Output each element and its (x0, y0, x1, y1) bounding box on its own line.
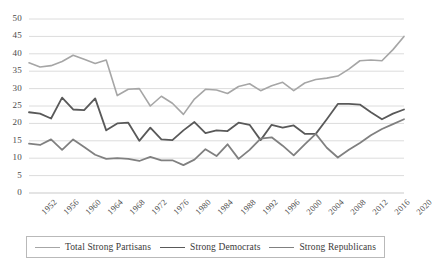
legend-item-label: Strong Republicans (299, 242, 375, 252)
series-line (29, 98, 404, 141)
y-tick-label: 20 (0, 117, 22, 127)
legend-line-swatch (35, 247, 60, 248)
legend-line-swatch (269, 247, 294, 248)
y-tick-label: 45 (0, 30, 22, 40)
y-tick-label: 10 (0, 152, 22, 162)
y-tick-label: 0 (0, 187, 22, 197)
legend: Total Strong PartisansStrong DemocratsSt… (26, 236, 385, 258)
y-tick-label: 5 (0, 170, 22, 180)
y-tick-label: 25 (0, 100, 22, 110)
y-tick-label: 35 (0, 65, 22, 75)
y-tick-label: 30 (0, 83, 22, 93)
legend-item-label: Total Strong Partisans (65, 242, 151, 252)
y-tick-label: 50 (0, 13, 22, 23)
x-tick-label: 2020 (414, 197, 434, 217)
y-tick-label: 15 (0, 135, 22, 145)
legend-item-label: Strong Democrats (190, 242, 260, 252)
legend-item[interactable]: Total Strong Partisans (35, 242, 151, 252)
gridlines (29, 19, 404, 193)
series-lines (29, 36, 404, 165)
series-line (29, 36, 404, 114)
legend-item[interactable]: Strong Democrats (160, 242, 260, 252)
legend-item[interactable]: Strong Republicans (269, 242, 375, 252)
y-tick-label: 40 (0, 48, 22, 58)
legend-line-swatch (160, 247, 185, 248)
